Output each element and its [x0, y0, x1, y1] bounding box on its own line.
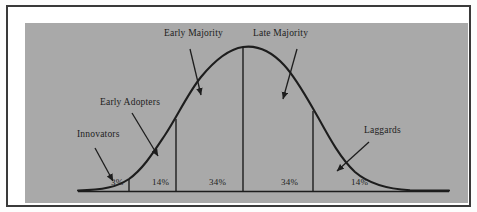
- leader-line-early-majority: [190, 49, 201, 95]
- figure-frame: Innovators Early Adopters Early Majority…: [0, 0, 477, 212]
- percent-label-late-majority: 34%: [281, 177, 298, 187]
- category-label-early-majority: Early Majority: [164, 28, 223, 38]
- leader-line-late-majority: [283, 49, 297, 99]
- bell-curve-plot-area: Innovators Early Adopters Early Majority…: [25, 23, 468, 203]
- leader-line-early-adopters: [132, 113, 158, 156]
- normal-distribution-curve: [78, 47, 449, 191]
- category-label-innovators: Innovators: [77, 129, 120, 139]
- percent-label-laggards: 14%: [351, 177, 368, 187]
- percent-label-early-majority: 34%: [209, 177, 226, 187]
- figure-border: Innovators Early Adopters Early Majority…: [6, 5, 471, 207]
- category-label-late-majority: Late Majority: [253, 28, 308, 38]
- category-label-laggards: Laggards: [364, 125, 401, 135]
- bell-curve-graphic: [25, 23, 468, 203]
- category-label-early-adopters: Early Adopters: [100, 97, 160, 107]
- percent-label-early-adopters: 14%: [152, 177, 169, 187]
- percent-label-innovators: 3%: [111, 177, 123, 187]
